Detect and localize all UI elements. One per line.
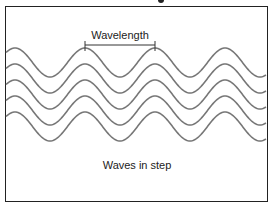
wavelength-marker xyxy=(85,41,155,51)
wave-line xyxy=(6,96,266,125)
wave-line xyxy=(6,112,266,141)
waves-in-step-diagram: Wavelength Waves in step xyxy=(0,0,275,213)
wavelength-label: Wavelength xyxy=(91,29,149,41)
caption-waves-in-step: Waves in step xyxy=(103,159,172,171)
wave-line xyxy=(6,48,266,77)
wave-line xyxy=(6,80,266,109)
wave-line xyxy=(6,64,266,93)
